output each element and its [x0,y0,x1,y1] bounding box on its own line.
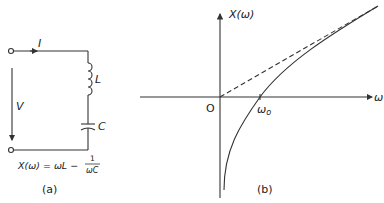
caption-b: (b) [257,183,273,196]
current-label: I [38,37,41,50]
equation-denominator: ωC [86,166,99,175]
voltage-label: V [16,100,25,113]
bottom-terminal [9,148,14,153]
reactance-curve [224,6,378,190]
inductor-coil-icon [88,63,92,95]
capacitor-label: C [98,120,106,133]
resonance-label: ωo [257,103,271,117]
origin-label: O [206,102,215,115]
diagram-canvas: I L C V X(ω) = ωL − 1 ωC (a) X(ω) ω O ωo… [0,0,384,203]
equation-numerator: 1 [90,154,95,163]
top-terminal [9,49,14,54]
equation-lhs: X(ω) = ωL − [17,160,78,171]
x-axis-label: ω [374,91,383,104]
inductor-label: L [95,73,101,86]
caption-a: (a) [42,183,57,196]
reactance-plot [140,6,378,198]
y-axis-label: X(ω) [228,8,254,21]
